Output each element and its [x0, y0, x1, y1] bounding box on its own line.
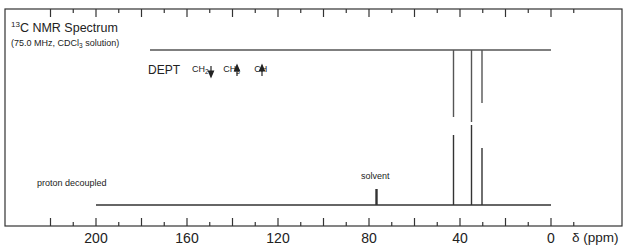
- tick-label-80: 80: [361, 230, 377, 246]
- legend-ch2-sub: 2: [205, 68, 209, 75]
- solvent-label: solvent: [361, 171, 390, 181]
- subtitle-c: solution): [83, 38, 120, 48]
- subtitle-a: (75.0 MHz, CDCl: [11, 38, 79, 48]
- legend-ch3: CH: [223, 64, 236, 74]
- legend-ch2: CH: [192, 64, 205, 74]
- tick-label-160: 160: [175, 230, 198, 246]
- dept-legend: CH2 CH3 CH: [192, 64, 267, 75]
- tick-label-40: 40: [452, 230, 468, 246]
- dept-label: DEPT: [148, 63, 180, 77]
- x-axis-label: δ (ppm): [572, 230, 619, 245]
- legend-ch3-sub: 3: [236, 68, 240, 75]
- title-text: C NMR Spectrum: [20, 21, 118, 35]
- proton-decoupled-spectrum: [96, 125, 551, 205]
- tick-label-120: 120: [266, 230, 289, 246]
- title-superscript: 13: [11, 20, 20, 29]
- legend-ch: CH: [254, 64, 267, 74]
- tick-label-200: 200: [84, 230, 107, 246]
- tick-label-0: 0: [547, 230, 555, 246]
- chart-subtitle: (75.0 MHz, CDCl3 solution): [11, 38, 119, 49]
- axis-ticks: [51, 9, 574, 226]
- dept-spectrum: [150, 50, 551, 122]
- proton-decoupled-label: proton decoupled: [37, 178, 107, 188]
- chart-title: 13C NMR Spectrum: [11, 20, 118, 35]
